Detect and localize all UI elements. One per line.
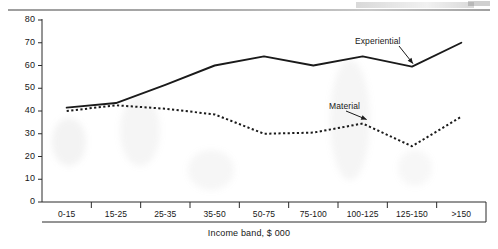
x-tick-label: 0-15 [42, 210, 91, 219]
annotation-experiential: Experiential [355, 36, 401, 46]
y-tick-label: 60 [13, 61, 35, 70]
y-tick-label: 30 [13, 129, 35, 138]
x-tick-label: 15-25 [91, 210, 140, 219]
x-tick-label: 100-125 [338, 210, 387, 219]
x-tick-label: >150 [437, 210, 486, 219]
x-tick-label: 75-100 [289, 210, 338, 219]
x-tick-label: 50-75 [239, 210, 288, 219]
tick-marks [38, 20, 437, 208]
y-tick-label: 40 [13, 106, 35, 115]
axes-lines [42, 19, 486, 222]
y-tick-label: 20 [13, 152, 35, 161]
chart-figure: 01020304050607080 0-1515-2525-3535-5050-… [0, 0, 498, 249]
y-tick-label: 70 [13, 38, 35, 47]
series-lines [67, 43, 462, 147]
y-tick-label: 10 [13, 174, 35, 183]
annotation-material: Material [329, 101, 360, 111]
y-tick-label: 80 [13, 15, 35, 24]
x-tick-label: 125-150 [387, 210, 436, 219]
x-tick-label: 25-35 [141, 210, 190, 219]
y-tick-label: 50 [13, 83, 35, 92]
arrow-experiential [399, 46, 413, 64]
y-tick-label: 0 [13, 197, 35, 206]
x-axis-title: Income band, $ 000 [0, 228, 498, 238]
series-line-material [67, 105, 462, 146]
x-tick-label: 35-50 [190, 210, 239, 219]
arrow-material [346, 111, 367, 120]
series-line-experiential [67, 43, 462, 108]
